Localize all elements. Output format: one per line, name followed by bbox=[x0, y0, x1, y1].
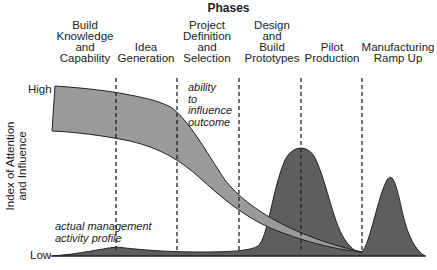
annotation-ability-to-influence: ability to influence outcome bbox=[188, 82, 232, 128]
y-tick-high: High bbox=[28, 83, 52, 95]
annotation-line: actual management bbox=[55, 221, 152, 233]
y-axis-label-line: and Influence bbox=[16, 106, 28, 226]
annotation-line: influence bbox=[188, 105, 232, 117]
annotation-activity-profile: actual management activity profile bbox=[55, 221, 152, 244]
annotation-line: activity profile bbox=[55, 233, 152, 245]
y-tick-low: Low bbox=[30, 249, 51, 261]
annotation-line: ability bbox=[188, 82, 232, 94]
annotation-line: outcome bbox=[188, 117, 232, 129]
y-axis-label-line: Index of Attention bbox=[4, 106, 16, 226]
y-axis-label: Index of Attention and Influence bbox=[4, 106, 32, 226]
